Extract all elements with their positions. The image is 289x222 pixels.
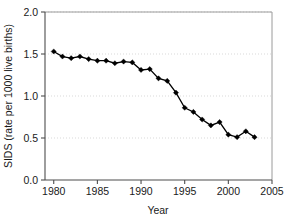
x-axis-ticks <box>54 180 272 184</box>
x-tick-label: 2005 <box>260 185 284 197</box>
sids-rate-line-chart: 0.00.51.01.52.0 198019851990199520002005… <box>0 0 289 222</box>
x-tick-label: 1995 <box>173 185 197 197</box>
x-tick-label: 2000 <box>217 185 241 197</box>
y-axis-title: SIDS (rate per 1000 live births) <box>2 24 14 168</box>
y-tick-label: 0.5 <box>23 132 38 144</box>
x-tick-label: 1985 <box>86 185 110 197</box>
x-tick-label: 1990 <box>129 185 153 197</box>
y-axis-tick-labels: 0.00.51.01.52.0 <box>23 6 38 186</box>
y-tick-label: 0.0 <box>23 174 38 186</box>
x-tick-label: 1980 <box>42 185 66 197</box>
chart-figure: 0.00.51.01.52.0 198019851990199520002005… <box>0 0 289 222</box>
y-axis-ticks <box>41 12 45 180</box>
x-axis-title: Year <box>147 204 169 216</box>
y-tick-label: 1.0 <box>23 90 38 102</box>
y-tick-label: 2.0 <box>23 6 38 18</box>
x-axis-tick-labels: 198019851990199520002005 <box>42 185 284 197</box>
y-tick-label: 1.5 <box>23 48 38 60</box>
